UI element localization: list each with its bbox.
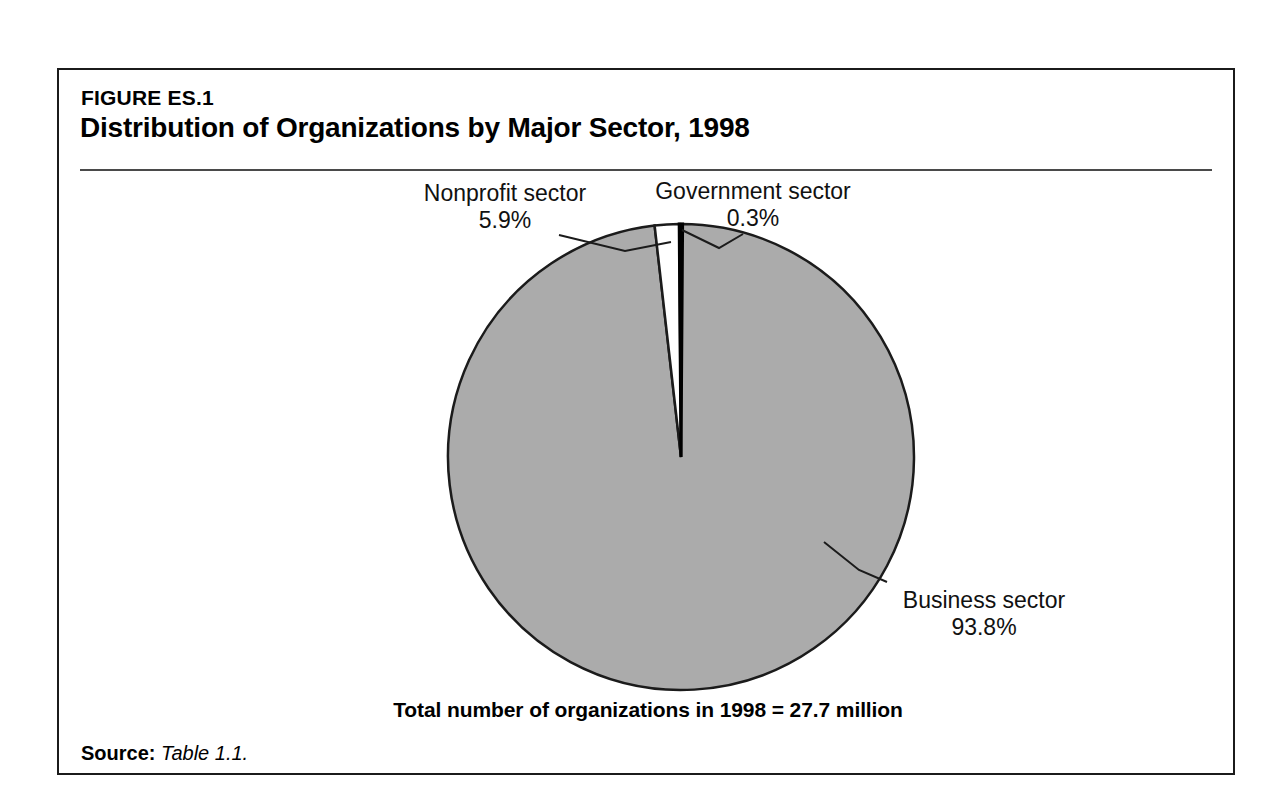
slice-label-government-name: Government sector — [633, 178, 873, 205]
pie-slice-government[interactable] — [679, 224, 682, 457]
slice-label-business-value: 93.8% — [874, 614, 1094, 641]
figure-frame: FIGURE ES.1 Distribution of Organization… — [57, 68, 1235, 775]
source-note: Source: Table 1.1. — [81, 742, 248, 765]
pie-chart: Nonprofit sector 5.9% Government sector … — [59, 70, 1237, 777]
slice-label-business: Business sector 93.8% — [874, 587, 1094, 641]
slice-label-nonprofit-name: Nonprofit sector — [400, 180, 610, 207]
pie-chart-graphic — [59, 70, 1237, 777]
total-caption: Total number of organizations in 1998 = … — [59, 698, 1237, 722]
slice-label-business-name: Business sector — [874, 587, 1094, 614]
slice-label-nonprofit: Nonprofit sector 5.9% — [400, 180, 610, 234]
source-value: Table 1.1. — [161, 742, 248, 764]
source-label: Source: — [81, 742, 155, 764]
slice-label-nonprofit-value: 5.9% — [400, 207, 610, 234]
slice-label-government-value: 0.3% — [633, 205, 873, 232]
slice-label-government: Government sector 0.3% — [633, 178, 873, 232]
